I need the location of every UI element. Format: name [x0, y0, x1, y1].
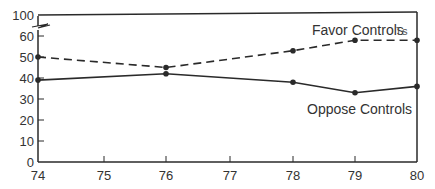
y-tick-label: 50: [20, 50, 34, 65]
y-tick-label: 40: [20, 71, 34, 86]
data-point: [352, 37, 358, 43]
y-tick-label: 10: [20, 134, 34, 149]
data-point: [290, 79, 296, 85]
data-point: [35, 77, 41, 83]
data-point: [414, 37, 420, 43]
y-tick-label: 20: [20, 113, 34, 128]
data-point: [35, 54, 41, 60]
x-tick-label: 80: [410, 168, 424, 183]
x-tick-label: 75: [97, 168, 111, 183]
series-favor-controls: [35, 37, 420, 70]
axis-break-icon: [32, 24, 50, 28]
data-point: [414, 84, 420, 90]
series-oppose-controls: [35, 71, 420, 95]
oppose-controls-label: Oppose Controls: [307, 101, 412, 117]
x-tick-label: 74: [31, 168, 45, 183]
line-chart: 0102030405060100 74757677787980 Favor Co…: [0, 0, 435, 189]
x-tick-label: 76: [159, 168, 173, 183]
data-point: [163, 71, 169, 77]
y-tick-label: 30: [20, 92, 34, 107]
favor-controls-label: Favor Controls: [312, 22, 404, 38]
top-border: [38, 12, 417, 15]
y-ticks: 0102030405060100: [12, 8, 44, 170]
y-tick-label: 100: [12, 8, 34, 23]
data-point: [352, 90, 358, 96]
x-tick-label: 77: [223, 168, 237, 183]
x-ticks: 74757677787980: [31, 156, 424, 183]
y-tick-label: 60: [20, 29, 34, 44]
x-tick-label: 78: [286, 168, 300, 183]
data-point: [290, 48, 296, 54]
data-point: [163, 65, 169, 71]
x-tick-label: 79: [348, 168, 362, 183]
stray-mark: ls: [395, 26, 408, 38]
